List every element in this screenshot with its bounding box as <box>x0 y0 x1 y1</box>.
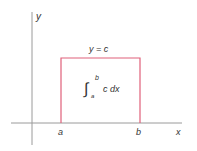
y-axis-label: y <box>35 11 42 22</box>
integral-upper-limit: b <box>95 74 99 81</box>
integrand: c dx <box>103 84 120 94</box>
b-label: b <box>136 127 141 137</box>
x-axis-label: x <box>175 127 181 137</box>
integral-lower-limit: a <box>91 93 95 99</box>
a-label: a <box>58 127 63 137</box>
constant-function-region <box>61 58 140 123</box>
integral-symbol: ∫ <box>83 80 90 98</box>
function-label: y = c <box>88 44 109 54</box>
constant-integral-diagram: y y = c ∫ b a c dx a b x <box>0 0 197 151</box>
